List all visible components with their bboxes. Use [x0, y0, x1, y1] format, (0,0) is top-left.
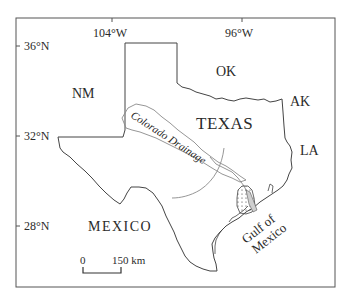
- lat-label-36n: 36°N: [24, 39, 50, 53]
- label-texas: TEXAS: [196, 114, 253, 133]
- label-ak: AK: [290, 94, 310, 109]
- scale-bar: 0 150 km: [80, 254, 146, 273]
- label-mexico: MEXICO: [88, 219, 152, 234]
- scale-start-label: 0: [80, 254, 86, 266]
- texas-map: 104°W 96°W 36°N 32°N 28°N NM OK AK LA TE…: [0, 0, 345, 300]
- label-nm: NM: [72, 86, 95, 101]
- lat-label-28n: 28°N: [24, 219, 50, 233]
- label-ok: OK: [216, 64, 236, 79]
- scale-end-label: 150 km: [112, 254, 146, 266]
- label-la: LA: [300, 143, 320, 158]
- lon-label-104w: 104°W: [93, 26, 128, 40]
- lon-label-96w: 96°W: [225, 26, 254, 40]
- lat-label-32n: 32°N: [24, 129, 50, 143]
